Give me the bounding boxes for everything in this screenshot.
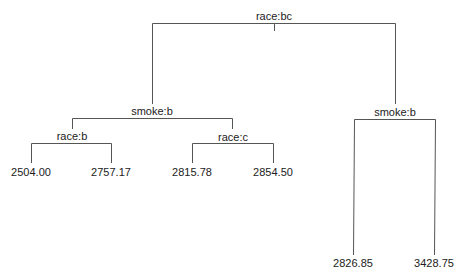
node-root-label: race:bc: [255, 10, 293, 22]
regression-tree-diagram: race:bc smoke:b smoke:b race:b race:c 25…: [0, 0, 465, 280]
leaf-value-label: 2815.78: [171, 166, 213, 178]
node-race-b-label: race:b: [56, 130, 89, 142]
node-race-c-label: race:c: [217, 131, 249, 143]
leaf-value-label: 2826.85: [332, 257, 374, 269]
node-left-smoke-label: smoke:b: [130, 105, 174, 117]
right-smoke-split-edge: [354, 120, 436, 256]
node-right-smoke-label: smoke:b: [373, 106, 417, 118]
root-split-edge: [153, 24, 396, 105]
leaf-value-label: 2854.50: [252, 166, 294, 178]
left-smoke-split-edge: [73, 119, 233, 130]
leaf-value-label: 2757.17: [90, 166, 132, 178]
race-b-split-edge: [32, 144, 112, 164]
leaf-value-label: 2504.00: [10, 166, 52, 178]
leaf-value-label: 3428.75: [413, 257, 455, 269]
race-c-split-edge: [193, 144, 274, 164]
